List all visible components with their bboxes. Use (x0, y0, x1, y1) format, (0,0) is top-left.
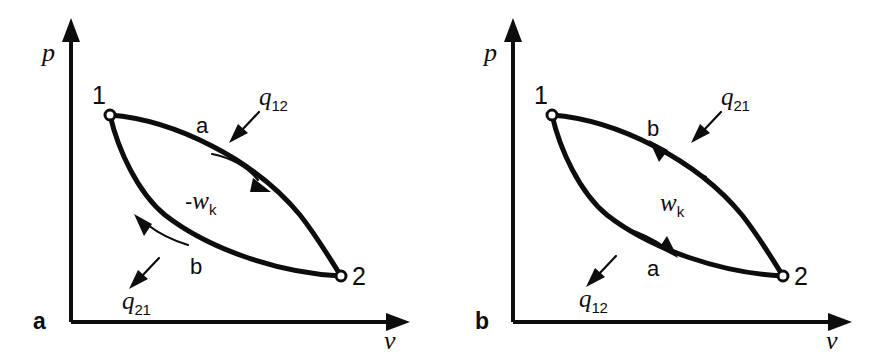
work-label: wk (660, 190, 684, 219)
panel-label-a: a (33, 310, 46, 333)
state-label-2: 2 (352, 264, 366, 289)
state-point-1 (105, 110, 115, 120)
panel-label-b: b (475, 310, 489, 333)
state-label-2: 2 (794, 264, 808, 289)
heat-label-q12: q12 (259, 84, 288, 113)
x-axis-label: v (826, 328, 838, 354)
leader-arrow-q21 (691, 112, 721, 143)
curve-lower-b (110, 115, 341, 276)
heat-subscript-lower: 12 (592, 299, 608, 316)
panel-b-svg (442, 0, 883, 361)
diagram-panel-b: p v 1 2 b a q21 q12 wk b (442, 0, 883, 361)
heat-symbol-lower: q (122, 287, 135, 314)
heat-subscript-upper: 21 (734, 97, 750, 114)
y-axis-arrowhead (504, 18, 522, 42)
heat-symbol-upper: q (721, 83, 734, 110)
work-symbol: w (192, 187, 209, 214)
heat-label-q21: q21 (122, 288, 151, 317)
y-axis-p (62, 18, 80, 322)
work-label: -wk (185, 188, 217, 217)
leader-arrow-q12 (586, 256, 616, 287)
flow-arrow-upper (212, 154, 271, 192)
heat-label-q21: q21 (721, 84, 750, 113)
heat-label-q12: q12 (579, 286, 608, 315)
state-point-2 (336, 271, 346, 281)
y-axis-p (504, 18, 522, 322)
y-axis-label: p (42, 40, 55, 66)
heat-symbol-lower: q (579, 285, 592, 312)
leader-arrow-q12 (229, 112, 259, 143)
y-axis-label: p (484, 40, 497, 66)
heat-subscript-lower: 21 (135, 301, 151, 318)
x-axis-v (513, 313, 852, 331)
state-point-1 (547, 110, 557, 120)
work-subscript: k (209, 201, 217, 218)
work-symbol: w (660, 189, 677, 216)
leader-arrow-q21 (129, 258, 159, 289)
curve-label-upper: b (647, 118, 659, 140)
curve-label-lower: a (647, 258, 659, 280)
x-axis-label: v (384, 328, 396, 354)
figure-container: p v 1 2 a b q12 q21 -wk a (0, 0, 883, 361)
heat-subscript-upper: 12 (272, 97, 288, 114)
curve-label-lower: b (190, 256, 202, 278)
panel-a-svg (0, 0, 441, 361)
y-axis-arrowhead (62, 18, 80, 42)
diagram-panel-a: p v 1 2 a b q12 q21 -wk a (0, 0, 441, 361)
work-subscript: k (677, 203, 685, 220)
state-point-2 (778, 271, 788, 281)
curve-label-upper: a (196, 115, 208, 137)
state-label-1: 1 (92, 83, 106, 108)
state-label-1: 1 (534, 83, 548, 108)
flow-arrow-lower (134, 214, 188, 245)
heat-symbol-upper: q (259, 83, 272, 110)
